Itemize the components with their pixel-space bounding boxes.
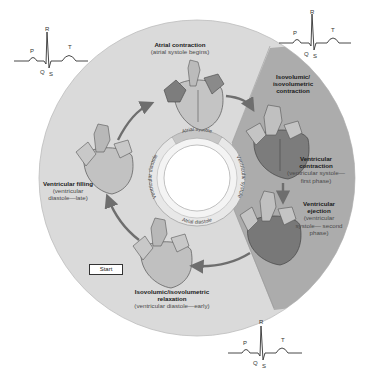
svg-text:S: S <box>313 53 317 59</box>
svg-text:Q: Q <box>40 69 45 75</box>
svg-text:P: P <box>243 340 247 346</box>
svg-text:R: R <box>259 319 264 325</box>
svg-text:P: P <box>293 30 297 36</box>
svg-text:R: R <box>310 9 315 15</box>
label-atrial-contraction: Atrial contraction (atrial systole begin… <box>140 41 220 55</box>
svg-text:T: T <box>68 44 72 50</box>
svg-text:S: S <box>262 363 266 369</box>
label-isovolumic-contraction: Isovolumic/ isovolumetric contraction <box>264 73 322 95</box>
label-ventricular-filling: Ventricular filling (ventricular diastol… <box>42 180 94 202</box>
start-label: Start <box>89 264 123 275</box>
center-hole <box>164 145 230 211</box>
label-isovolumic-relaxation: Isovolumic/isovolumetric relaxation (ven… <box>124 288 220 310</box>
ecg-trace-top-left-icon: P R Q S T <box>14 26 88 77</box>
label-ventricular-ejection: Ventricular ejection (ventricular systol… <box>294 200 344 236</box>
svg-text:T: T <box>331 27 335 33</box>
svg-text:Q: Q <box>304 51 309 57</box>
svg-text:T: T <box>281 337 285 343</box>
svg-text:S: S <box>49 71 53 77</box>
svg-text:R: R <box>45 26 50 32</box>
svg-text:P: P <box>30 48 34 54</box>
svg-text:Q: Q <box>253 360 258 366</box>
label-ventricular-contraction: Ventricular contraction (ventricular sys… <box>287 155 345 184</box>
